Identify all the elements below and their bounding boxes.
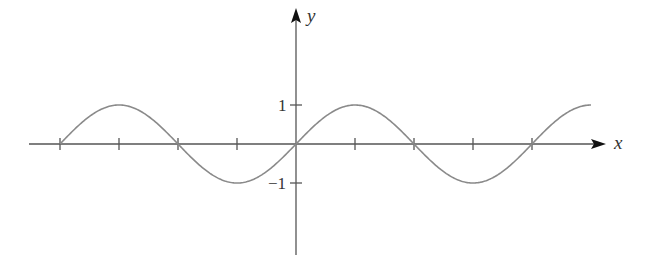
x-axis: [29, 138, 606, 150]
y-tick-label-neg1: −1: [268, 174, 286, 193]
y-tick-label-1: 1: [278, 96, 287, 115]
y-axis-label: y: [305, 5, 316, 26]
y-axis: [290, 8, 302, 255]
sine-plot: 1 −1 y x: [0, 0, 650, 277]
x-axis-label: x: [613, 132, 623, 153]
